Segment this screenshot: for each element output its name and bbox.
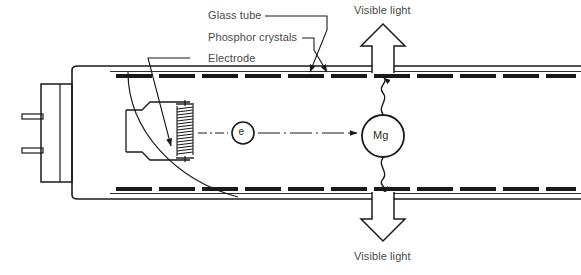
label-mercury-symbol: Mg <box>373 129 388 141</box>
label-visible-light-top: Visible light <box>354 4 411 16</box>
label-electron-symbol: e <box>239 126 245 137</box>
leader-glass-tube <box>265 16 327 72</box>
diagram-canvas: Glass tube Phosphor crystals Electrode V… <box>0 0 581 275</box>
tube-pins <box>22 114 43 153</box>
label-electrode: Electrode <box>208 52 255 64</box>
cutaway-arc <box>128 72 238 197</box>
tube-base-cap <box>41 84 72 182</box>
uv-photon-wave-down <box>381 158 385 192</box>
leader-phosphor-crystals <box>302 38 327 72</box>
label-phosphor-crystals: Phosphor crystals <box>208 31 297 43</box>
label-glass-tube: Glass tube <box>208 9 262 21</box>
uv-photon-wave-up <box>381 78 385 114</box>
electrode-filament-coil <box>176 100 194 162</box>
label-visible-light-bottom: Visible light <box>354 250 411 262</box>
